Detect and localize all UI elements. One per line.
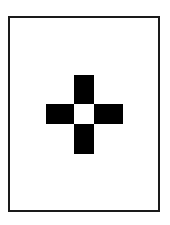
right-arm xyxy=(94,104,123,124)
cross-figure xyxy=(0,0,170,225)
bottom-arm xyxy=(74,124,94,154)
top-arm xyxy=(74,75,94,104)
center-square xyxy=(74,104,94,124)
left-arm xyxy=(46,104,74,124)
